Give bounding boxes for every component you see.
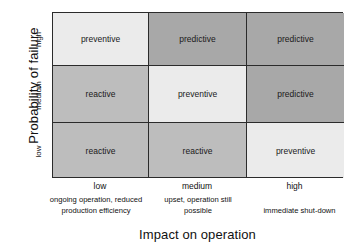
matrix-cell: predictive [149, 13, 247, 66]
x-axis-line [52, 177, 343, 178]
x-axis-title: Impact on operation [52, 227, 343, 242]
y-tick-label-medium: medium [34, 68, 43, 124]
y-tick-label-high: high [34, 12, 43, 68]
x-sub-caption-low: ongoing operation, reduced production ef… [44, 195, 148, 216]
matrix-cell: predictive [247, 13, 344, 66]
matrix-cell: reactive [53, 123, 149, 178]
matrix-cell: predictive [247, 66, 344, 123]
matrix-cell: preventive [53, 13, 149, 66]
matrix-cell: preventive [149, 66, 247, 123]
x-sub-caption-high: immediate shut-down [248, 195, 351, 216]
risk-matrix-grid: preventive predictive predictive reactiv… [52, 12, 343, 177]
matrix-cell: reactive [53, 66, 149, 123]
x-sub-caption-medium: upset, operation still possible [148, 195, 248, 216]
y-tick-label-low: low [34, 124, 43, 180]
x-tick-label-high: high [246, 181, 343, 191]
matrix-cell: preventive [247, 123, 344, 178]
risk-matrix-figure: Probability of failure high medium low p… [0, 0, 361, 246]
x-tick-labels: low medium high [52, 181, 343, 191]
matrix-cell: reactive [149, 123, 247, 178]
x-tick-label-medium: medium [148, 181, 246, 191]
x-axis-sub-captions: ongoing operation, reduced production ef… [44, 195, 351, 216]
x-tick-label-low: low [52, 181, 148, 191]
